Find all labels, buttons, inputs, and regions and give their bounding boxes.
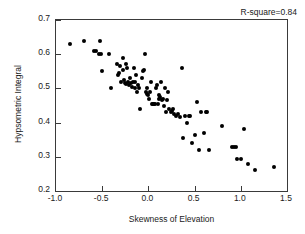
x-axis-tick-label: -0.5 (84, 194, 118, 203)
scatter-point (164, 110, 168, 114)
scatter-point (134, 73, 138, 77)
y-axis-tick-label: 0.3 (24, 151, 50, 160)
scatter-point (68, 42, 72, 46)
scatter-point (193, 133, 197, 137)
scatter-point (205, 110, 209, 114)
plot-area (56, 20, 287, 191)
y-axis-tick-label: 0.5 (24, 82, 50, 91)
scatter-point (143, 52, 147, 56)
x-axis-tick-label: 1.5 (269, 194, 303, 203)
scatter-point (239, 157, 243, 161)
scatter-point (100, 69, 104, 73)
x-axis-tick (241, 186, 242, 191)
scatter-point (180, 66, 184, 70)
scatter-point (181, 136, 185, 140)
scatter-point (82, 39, 86, 43)
scatter-point (197, 148, 201, 152)
scatter-point (166, 90, 170, 94)
scatter-point (132, 66, 136, 70)
scatter-point (171, 107, 175, 111)
scatter-point (149, 80, 153, 84)
scatter-point (140, 76, 144, 80)
x-axis-title: Skewness of Elevation (55, 214, 288, 224)
scatter-point (272, 165, 276, 169)
scatter-point (202, 131, 206, 135)
y-axis-tick (56, 20, 61, 21)
scatter-point (242, 127, 246, 131)
scatter-point (138, 107, 142, 111)
scatter-chart-figure: R-square=0.84 Hypsometric Integral Skewn… (0, 0, 305, 234)
scatter-point (199, 110, 203, 114)
scatter-point (188, 114, 192, 118)
x-axis-tick (102, 186, 103, 191)
y-axis-tick (56, 123, 61, 124)
x-axis-tick (195, 186, 196, 191)
x-axis-tick-label: 0.5 (177, 194, 211, 203)
scatter-point (220, 124, 224, 128)
y-axis-tick-label: 0.6 (24, 48, 50, 57)
x-axis-tick-label: 0.0 (130, 194, 164, 203)
scatter-point (178, 115, 182, 119)
plot-frame (55, 19, 288, 192)
y-axis-tick (56, 88, 61, 89)
x-axis-tick-label: 1.0 (223, 194, 257, 203)
y-axis-tick-label: 0.4 (24, 117, 50, 126)
r-square-annotation: R-square=0.84 (241, 7, 297, 17)
scatter-point (207, 148, 211, 152)
y-axis-tick (56, 157, 61, 158)
y-axis-title: Hypsometric Integral (13, 34, 23, 174)
scatter-point (121, 56, 125, 60)
scatter-point (117, 71, 121, 75)
y-axis-tick (56, 191, 61, 192)
scatter-point (142, 68, 146, 72)
scatter-point (156, 102, 160, 106)
scatter-point (190, 141, 194, 145)
y-axis-tick-label: 0.2 (24, 185, 50, 194)
scatter-point (107, 52, 111, 56)
x-axis-tick (148, 186, 149, 191)
scatter-point (137, 86, 141, 90)
scatter-point (162, 104, 166, 108)
scatter-point (234, 145, 238, 149)
scatter-point (159, 80, 163, 84)
scatter-point (125, 66, 129, 70)
scatter-point (155, 83, 159, 87)
scatter-point (185, 121, 189, 125)
scatter-point (109, 86, 113, 90)
scatter-point (147, 97, 151, 101)
scatter-point (99, 52, 103, 56)
scatter-point (253, 168, 257, 172)
scatter-point (135, 90, 139, 94)
scatter-point (98, 39, 102, 43)
scatter-point (195, 100, 199, 104)
x-axis-tick-label: -1.0 (38, 194, 72, 203)
y-axis-tick-label: 0.7 (24, 14, 50, 23)
scatter-point (165, 98, 169, 102)
y-axis-tick (56, 54, 61, 55)
scatter-point (148, 90, 152, 94)
scatter-point (154, 86, 158, 90)
scatter-point (246, 162, 250, 166)
